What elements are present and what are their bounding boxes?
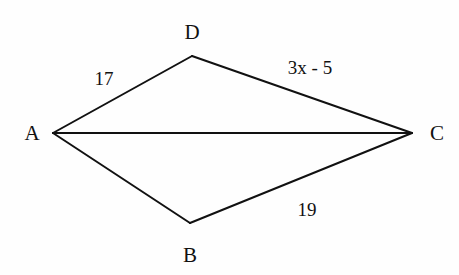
vertex-label-c: C xyxy=(430,121,444,145)
diagram-canvas: 173x - 519ADCB xyxy=(0,0,459,275)
segment-ba xyxy=(53,133,190,223)
vertex-label-d: D xyxy=(184,20,199,44)
vertex-label-b: B xyxy=(183,243,197,267)
segment-ad xyxy=(53,56,192,133)
vertex-label-a: A xyxy=(24,121,40,145)
side-length-dc: 3x - 5 xyxy=(288,57,332,78)
side-length-ad: 17 xyxy=(95,68,114,89)
kite-diagram: 173x - 519ADCB xyxy=(0,0,459,275)
side-length-cb: 19 xyxy=(298,199,317,220)
labels: 173x - 519ADCB xyxy=(24,20,444,267)
